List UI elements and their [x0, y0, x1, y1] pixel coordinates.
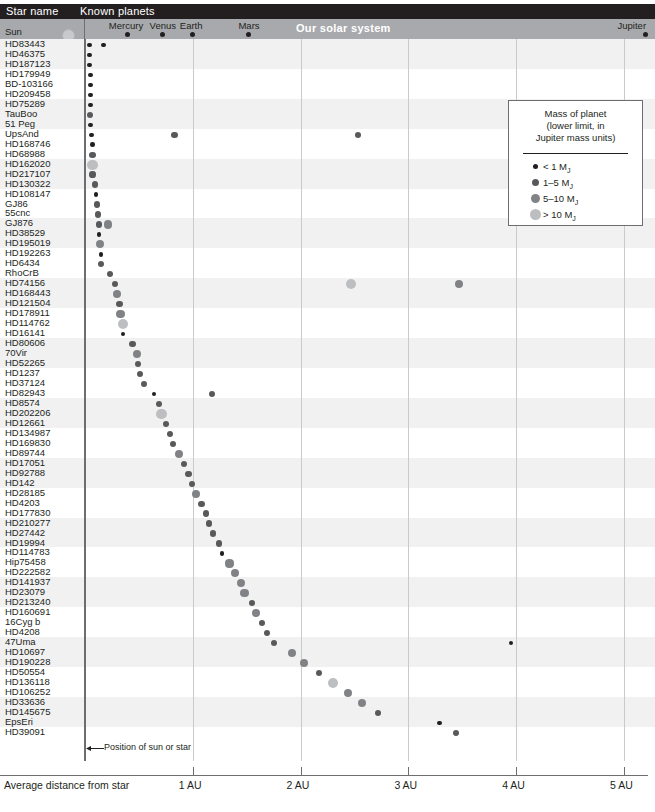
- legend-label-1: < 1 MJ: [543, 161, 571, 174]
- gridline-0au: [85, 39, 86, 761]
- legend-label-subscript: J: [572, 215, 576, 222]
- planet-dot: [300, 659, 308, 667]
- solar-system-band: Our solar system: [0, 19, 655, 39]
- planet-dot: [101, 43, 105, 47]
- legend: Mass of planet (lower limit, in Jupiter …: [508, 100, 643, 226]
- axis-tick: [408, 767, 409, 776]
- axis-tick: [624, 767, 625, 776]
- row-stripe: [0, 338, 655, 368]
- planet-dot: [90, 142, 94, 146]
- planet-dot: [175, 450, 183, 458]
- planet-dot: [104, 220, 112, 228]
- gridline-2au: [301, 39, 302, 761]
- planet-dot: [87, 160, 97, 170]
- gridline-1au: [193, 39, 194, 761]
- legend-dot-2: [532, 179, 539, 186]
- planet-dot: [192, 490, 200, 498]
- solar-planet-label-jupiter: Jupiter: [618, 20, 647, 31]
- planet-dot: [453, 730, 459, 736]
- axis-tick: [516, 767, 517, 776]
- planet-dot: [171, 132, 177, 138]
- planet-dot: [89, 133, 93, 137]
- planet-dot: [209, 391, 215, 397]
- planet-dot: [94, 201, 100, 207]
- planet-dot: [264, 630, 270, 636]
- axis-tick-label: 3 AU: [394, 779, 417, 791]
- legend-title-line3: Jupiter mass units): [536, 132, 616, 143]
- legend-title: Mass of planet (lower limit, in Jupiter …: [509, 108, 642, 144]
- legend-label-4: > 10 MJ: [543, 209, 576, 222]
- planet-dot: [156, 409, 166, 419]
- column-header-known-planets: Known planets: [80, 5, 155, 17]
- planet-dot: [88, 123, 92, 127]
- legend-label-subscript: J: [575, 199, 579, 206]
- planet-dot: [437, 721, 441, 725]
- x-axis-title: Average distance from star: [4, 779, 129, 791]
- planet-dot: [203, 510, 209, 516]
- planet-dot: [344, 689, 352, 697]
- axis-tick-label: 4 AU: [502, 779, 525, 791]
- planet-dot: [99, 252, 103, 256]
- planet-dot: [89, 152, 95, 158]
- legend-divider: [523, 153, 628, 154]
- planet-dot: [185, 471, 191, 477]
- sun-row-label: Sun: [5, 26, 22, 37]
- legend-label-text: > 10 M: [543, 209, 572, 220]
- row-stripe: [0, 577, 655, 607]
- planet-dot: [118, 319, 128, 329]
- row-stripe: [0, 637, 655, 667]
- legend-label-text: < 1 M: [543, 161, 567, 172]
- planet-dot: [116, 310, 124, 318]
- planet-dot: [107, 271, 113, 277]
- axis-tick-label: 5 AU: [610, 779, 633, 791]
- row-stripe: [0, 697, 655, 727]
- legend-dot-4: [530, 209, 541, 220]
- legend-label-text: 5–10 M: [543, 193, 575, 204]
- exoplanet-distance-chart: Star name Known planets Our solar system…: [0, 0, 655, 812]
- axis-tick-label: 2 AU: [287, 779, 310, 791]
- planet-dot: [97, 232, 101, 236]
- planet-dot: [87, 53, 91, 57]
- planet-dot: [206, 520, 212, 526]
- planet-dot: [328, 678, 338, 688]
- solar-planet-label-mars: Mars: [238, 20, 259, 31]
- legend-dot-1: [533, 164, 538, 169]
- planet-dot: [88, 73, 92, 77]
- axis-tick: [301, 767, 302, 776]
- planet-dot: [88, 103, 92, 107]
- legend-label-subscript: J: [567, 167, 571, 174]
- header-bar: Star name Known planets: [0, 4, 655, 19]
- planet-dot: [135, 361, 141, 367]
- planet-dot: [252, 609, 260, 617]
- row-stripe: [0, 518, 655, 548]
- planet-dot: [95, 211, 101, 217]
- row-stripe: [0, 458, 655, 488]
- position-annotation: Position of sun or star: [104, 742, 191, 752]
- planet-dot: [167, 431, 173, 437]
- star-name-column: HD83443HD46375HD187123HD179949BD-103166H…: [0, 39, 84, 761]
- planet-dot: [316, 670, 322, 676]
- legend-title-line1: Mass of planet: [545, 108, 607, 119]
- star-name-divider: [84, 19, 85, 761]
- gridline-3au: [408, 39, 409, 761]
- planet-dot: [89, 171, 95, 177]
- row-stripe: [0, 278, 655, 308]
- planet-dot: [189, 481, 195, 487]
- planet-dot: [88, 93, 92, 97]
- left-arrow-icon: [86, 745, 104, 752]
- planet-dot: [240, 589, 248, 597]
- solar-planet-label-venus: Venus: [150, 20, 176, 31]
- planet-dot: [88, 83, 92, 87]
- planet-dot: [133, 350, 141, 358]
- planet-dot: [198, 501, 204, 507]
- planet-dot: [231, 569, 239, 577]
- legend-label-text: 1–5 M: [543, 177, 569, 188]
- planet-dot: [141, 381, 147, 387]
- legend-dot-3: [531, 194, 540, 203]
- axis-tick: [193, 767, 194, 776]
- planet-dot: [129, 341, 135, 347]
- planet-dot: [210, 530, 216, 536]
- x-axis-line: [0, 775, 648, 776]
- planet-dot: [181, 461, 187, 467]
- planet-dot: [98, 261, 104, 267]
